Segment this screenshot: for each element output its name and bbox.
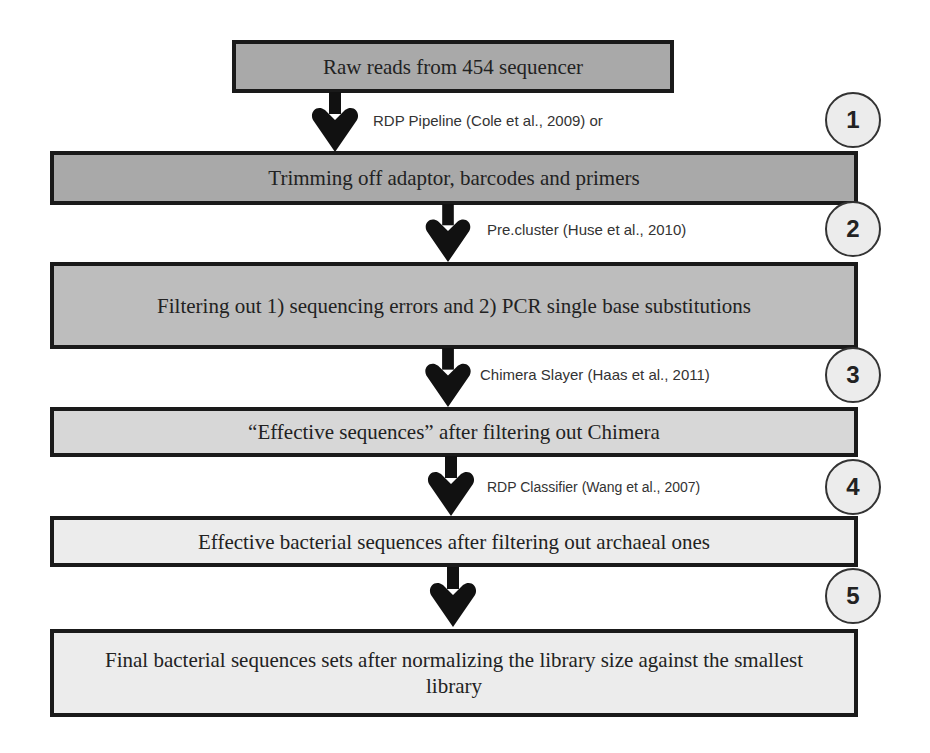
step-3-badge: 3: [825, 347, 881, 403]
arrow-down-icon: [424, 348, 472, 409]
step-2-label: Pre.cluster (Huse et al., 2010): [487, 221, 686, 238]
step-2-badge: 2: [825, 201, 881, 257]
box-bacterial-sequences-text: Effective bacterial sequences after filt…: [198, 529, 710, 555]
step-1-number: 1: [846, 106, 859, 134]
step-2-number: 2: [846, 215, 859, 243]
box-final-sequences-text: Final bacterial sequences sets after nor…: [104, 647, 804, 699]
box-raw-reads: Raw reads from 454 sequencer: [232, 40, 674, 93]
arrow-down-icon: [424, 204, 472, 264]
arrow-down-icon: [311, 92, 359, 154]
box-filtering-errors-text: Filtering out 1) sequencing errors and 2…: [157, 293, 751, 319]
box-effective-sequences: “Effective sequences” after filtering ou…: [50, 407, 858, 457]
box-filtering-errors: Filtering out 1) sequencing errors and 2…: [50, 262, 858, 349]
step-5-number: 5: [846, 582, 859, 610]
step-1-badge: 1: [825, 92, 881, 148]
step-1-label: RDP Pipeline (Cole et al., 2009) or: [373, 112, 603, 129]
step-3-number: 3: [846, 361, 859, 389]
step-4-label: RDP Classifier (Wang et al., 2007): [487, 479, 700, 495]
box-trimming: Trimming off adaptor, barcodes and prime…: [50, 151, 858, 205]
step-5-badge: 5: [825, 568, 881, 624]
box-raw-reads-text: Raw reads from 454 sequencer: [323, 54, 583, 80]
box-effective-sequences-text: “Effective sequences” after filtering ou…: [248, 419, 660, 445]
step-3-label: Chimera Slayer (Haas et al., 2011): [480, 366, 710, 383]
arrow-down-icon: [427, 456, 475, 518]
box-bacterial-sequences: Effective bacterial sequences after filt…: [50, 516, 858, 567]
box-trimming-text: Trimming off adaptor, barcodes and prime…: [268, 165, 639, 191]
arrow-down-icon: [429, 566, 477, 630]
step-4-number: 4: [846, 473, 859, 501]
box-final-sequences: Final bacterial sequences sets after nor…: [50, 629, 858, 717]
step-4-badge: 4: [825, 459, 881, 515]
